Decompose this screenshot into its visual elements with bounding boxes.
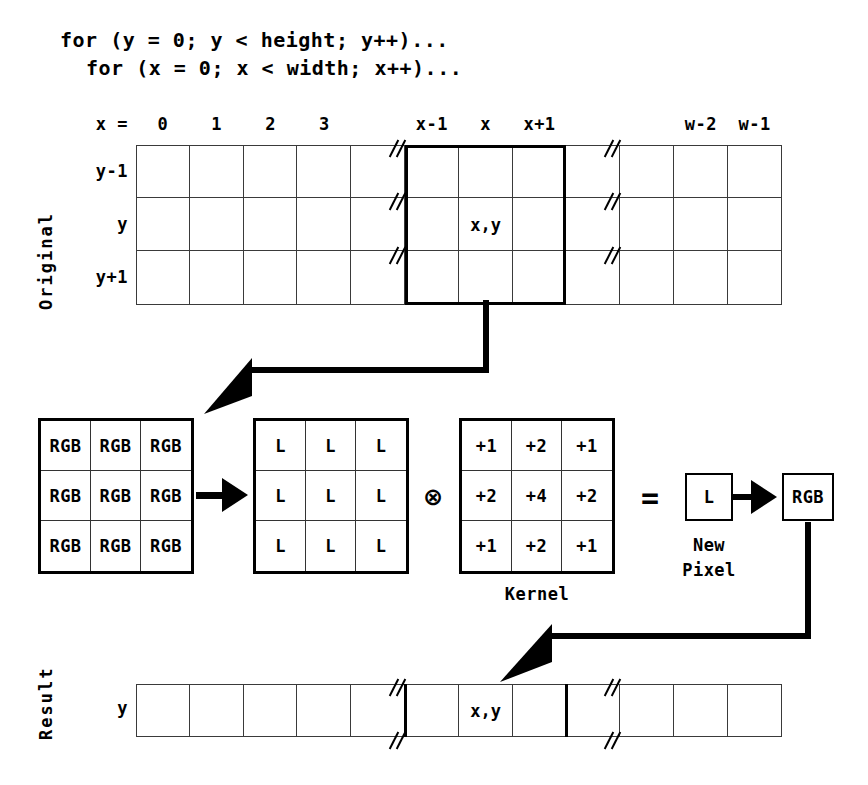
connector-original-to-rgb [204, 300, 486, 414]
connector-newpixel-to-result [500, 522, 808, 682]
diagram-canvas: for (y = 0; y < height; y++)... for (x =… [0, 0, 868, 785]
connector-layer [0, 0, 868, 785]
